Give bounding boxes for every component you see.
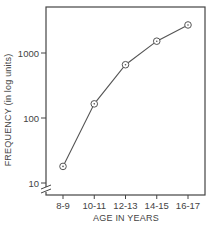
data-point-dot: [125, 64, 127, 66]
plot-frame: [46, 7, 205, 195]
x-tick-label: 16-17: [176, 200, 200, 211]
data-point-dot: [93, 103, 95, 105]
x-axis-ticks: 8-910-1112-1314-1516-17: [56, 195, 200, 211]
x-tick-label: 10-11: [82, 200, 106, 211]
series-line: [63, 25, 188, 166]
data-series: [60, 22, 192, 170]
frequency-by-age-chart: 101001000 8-910-1112-1314-1516-17 AGE IN…: [0, 0, 216, 229]
x-tick-label: 12-13: [113, 200, 137, 211]
y-axis-title: FREQUENCY (in log units): [3, 54, 13, 167]
y-tick-label: 10: [28, 178, 39, 189]
x-tick-label: 14-15: [145, 200, 169, 211]
x-axis-title: AGE IN YEARS: [93, 213, 159, 223]
data-point-dot: [62, 166, 64, 168]
data-point-dot: [156, 40, 158, 42]
data-point-dot: [187, 24, 189, 26]
y-tick-label: 1000: [18, 48, 39, 59]
y-axis-ticks: 101001000: [18, 48, 46, 189]
x-tick-label: 8-9: [56, 200, 70, 211]
y-tick-label: 100: [23, 113, 39, 124]
